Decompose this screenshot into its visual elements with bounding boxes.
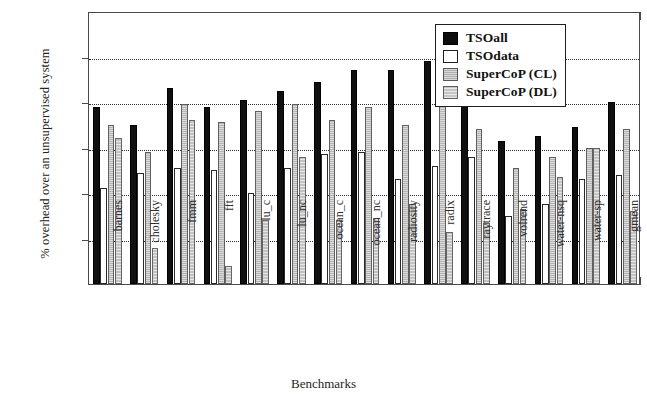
x-axis-tick-label: ocean_nc xyxy=(369,200,384,290)
bar-chart: % overhead over an unsupervised system 0… xyxy=(0,0,647,402)
legend-item-label: SuperCoP (DL) xyxy=(466,84,557,100)
bar-tsoall xyxy=(608,102,615,284)
legend: TSOallTSOdataSuperCoP (CL)SuperCoP (DL) xyxy=(435,24,566,107)
legend-swatch-icon xyxy=(443,32,458,45)
x-axis-tick-label: fft xyxy=(222,200,237,290)
x-axis-tick-label: raytrace xyxy=(479,200,494,290)
bar-tsodata xyxy=(616,175,623,284)
x-axis-tick-label: lu_nc xyxy=(295,200,310,290)
x-axis-tick-label: radix xyxy=(443,200,458,290)
x-axis-tick-label: gmean xyxy=(627,200,642,290)
x-axis-tick-label: water-sp xyxy=(590,200,605,290)
x-axis-tick-label: volrend xyxy=(516,200,531,290)
legend-swatch-icon xyxy=(443,50,458,63)
x-axis-tick-label: water-nsq xyxy=(553,200,568,290)
legend-item-label: SuperCoP (CL) xyxy=(466,66,557,82)
x-axis-tick-label: fmm xyxy=(185,200,200,290)
x-axis-title: Benchmarks xyxy=(0,376,647,392)
x-axis-tick-label: cholesky xyxy=(148,200,163,290)
legend-item: SuperCoP (DL) xyxy=(443,83,557,101)
x-axis-tick-label: radiosity xyxy=(406,200,421,290)
legend-item-label: TSOall xyxy=(466,30,508,46)
top-axis-tick xyxy=(640,12,641,20)
legend-swatch-icon xyxy=(443,86,458,99)
legend-item: TSOall xyxy=(443,29,557,47)
legend-item-label: TSOdata xyxy=(466,48,519,64)
legend-swatch-icon xyxy=(443,68,458,81)
y-axis-title: % overhead over an unsupervised system xyxy=(38,9,53,299)
x-axis-tick-label: ocean_c xyxy=(332,200,347,290)
x-axis-tick-label: lu_c xyxy=(259,200,274,290)
legend-item: SuperCoP (CL) xyxy=(443,65,557,83)
legend-item: TSOdata xyxy=(443,47,557,65)
x-axis-tick-label: barnes xyxy=(111,200,126,290)
